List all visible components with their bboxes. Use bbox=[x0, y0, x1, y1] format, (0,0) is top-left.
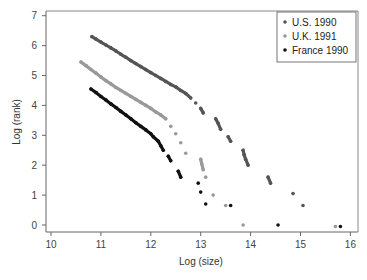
data-point bbox=[224, 204, 228, 208]
data-point bbox=[204, 202, 208, 206]
y-tick-label: 4 bbox=[31, 100, 37, 111]
y-axis-title: Log (rank) bbox=[11, 99, 22, 145]
y-tick-label: 3 bbox=[31, 130, 37, 141]
data-point bbox=[194, 101, 198, 105]
series-u-s-1990 bbox=[90, 35, 305, 208]
series-france-1990 bbox=[89, 87, 342, 228]
data-point bbox=[161, 148, 165, 152]
data-point bbox=[201, 168, 205, 172]
data-point bbox=[196, 181, 200, 185]
legend: U.S. 1990U.K. 1991France 1990 bbox=[277, 12, 356, 62]
data-point bbox=[229, 139, 233, 143]
scatter-chart: 01234567 10111213141516 U.S. 1990U.K. 19… bbox=[0, 0, 367, 280]
x-tick-label: 16 bbox=[345, 239, 357, 250]
x-axis-title: Log (size) bbox=[179, 256, 223, 267]
data-point bbox=[229, 204, 233, 208]
data-point bbox=[291, 192, 295, 196]
x-tick-label: 12 bbox=[145, 239, 157, 250]
y-tick-label: 0 bbox=[31, 220, 37, 231]
x-axis: 10111213141516 bbox=[45, 232, 356, 250]
data-point bbox=[276, 223, 280, 227]
y-tick-label: 6 bbox=[31, 40, 37, 51]
legend-label: France 1990 bbox=[292, 45, 349, 56]
data-point bbox=[179, 141, 183, 145]
series-u-k-1991 bbox=[79, 60, 337, 228]
data-points bbox=[79, 35, 342, 228]
data-point bbox=[179, 175, 183, 179]
data-point bbox=[204, 175, 208, 179]
data-point bbox=[174, 132, 178, 136]
legend-marker bbox=[283, 20, 287, 24]
y-tick-label: 1 bbox=[31, 190, 37, 201]
data-point bbox=[211, 193, 215, 197]
y-axis: 01234567 bbox=[31, 10, 46, 230]
y-tick-label: 5 bbox=[31, 70, 37, 81]
y-tick-label: 2 bbox=[31, 160, 37, 171]
data-point bbox=[199, 190, 203, 194]
data-point bbox=[189, 96, 193, 100]
legend-marker bbox=[283, 34, 287, 38]
data-point bbox=[169, 159, 173, 163]
x-tick-label: 15 bbox=[295, 239, 307, 250]
x-tick-label: 10 bbox=[45, 239, 57, 250]
data-point bbox=[334, 225, 338, 229]
data-point bbox=[246, 163, 250, 167]
legend-label: U.S. 1990 bbox=[292, 17, 337, 28]
data-point bbox=[219, 128, 223, 132]
data-point bbox=[269, 181, 273, 185]
x-tick-label: 13 bbox=[195, 239, 207, 250]
data-point bbox=[301, 204, 305, 208]
y-tick-label: 7 bbox=[31, 10, 37, 21]
x-tick-label: 14 bbox=[245, 239, 257, 250]
x-tick-label: 11 bbox=[96, 239, 107, 250]
data-point bbox=[169, 125, 173, 129]
data-point bbox=[201, 111, 205, 115]
legend-marker bbox=[283, 48, 287, 52]
data-point bbox=[241, 223, 245, 227]
data-point bbox=[339, 225, 343, 229]
data-point bbox=[164, 117, 168, 121]
legend-label: U.K. 1991 bbox=[292, 31, 337, 42]
data-point bbox=[184, 151, 188, 155]
